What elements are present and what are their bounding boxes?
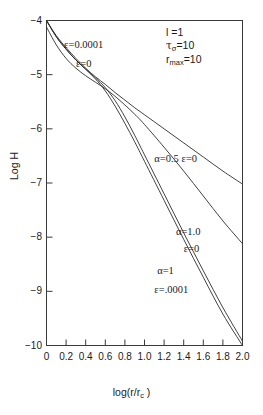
param-rmax: rmax=10 [166, 53, 201, 68]
annotation-alpha-05-eps-0: α=0.5 ε=0 [154, 153, 197, 165]
x-tick-label: 2.0 [231, 351, 255, 362]
y-tick-label: −6 [0, 123, 42, 134]
param-tau-value: =10 [176, 39, 194, 51]
param-tau-subscript: σ [172, 44, 177, 53]
parameter-block: l =1 τσ=10 rmax=10 [166, 26, 201, 68]
y-tick-label: −4 [0, 15, 42, 26]
y-tick-label: −9 [0, 285, 42, 296]
param-tau-symbol: τ [166, 39, 172, 51]
y-tick-label: −10 [0, 340, 42, 351]
y-axis-ticks [47, 21, 53, 346]
figure: −4−5−6−7−8−9−10 00.20.40.60.81.01.21.41.… [0, 0, 263, 415]
param-rmax-symbol: r [166, 53, 170, 65]
annotation-alpha-1-eps-0001: ε=.0001 [154, 284, 188, 296]
x-axis-title-text: log(r/rc ) [113, 386, 151, 398]
param-l: l =1 [166, 26, 201, 39]
param-tau: τσ=10 [166, 39, 201, 54]
annotation-alpha-10-eps-0: ε=0 [184, 243, 200, 255]
y-tick-label: −5 [0, 69, 42, 80]
x-axis-ticks [47, 340, 243, 346]
y-axis-title: Log H [8, 136, 20, 196]
param-rmax-subscript: max [170, 58, 184, 67]
y-tick-label: −7 [0, 177, 42, 188]
param-rmax-value: =10 [184, 53, 202, 65]
x-axis-title-subscript: c [140, 391, 144, 400]
annotation-alpha-10: α=1.0 [176, 226, 201, 238]
annotation-alpha-1: α=1 [157, 265, 174, 277]
x-axis-title: log(r/rc ) [0, 386, 263, 398]
annotation-eps-0001: ε=0.0001 [64, 39, 103, 51]
annotation-eps-0: ε=0 [76, 58, 92, 70]
y-tick-label: −8 [0, 231, 42, 242]
